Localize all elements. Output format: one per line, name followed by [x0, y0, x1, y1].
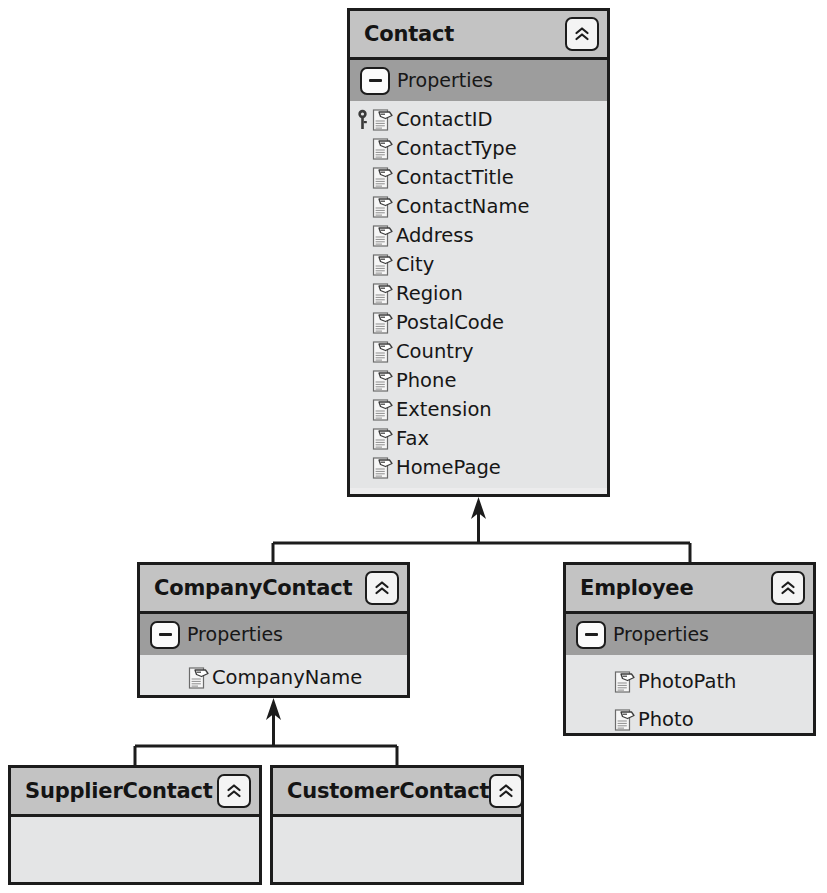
class-title-bar-contact: Contact	[350, 11, 607, 60]
class-body-suppliercontact	[11, 817, 259, 882]
property-row[interactable]: PhotoPath	[566, 663, 813, 701]
property-name: CompanyName	[212, 668, 362, 688]
property-icon	[372, 282, 394, 306]
double-chevron-up-icon[interactable]	[217, 774, 251, 808]
class-name-customercontact: CustomerContact	[287, 781, 489, 802]
property-name: Photo	[638, 710, 694, 730]
property-icon	[188, 666, 210, 690]
property-name: Phone	[396, 371, 456, 391]
property-row[interactable]: Country	[350, 337, 607, 366]
property-icon	[614, 708, 636, 732]
property-row[interactable]: City	[350, 250, 607, 279]
class-name-suppliercontact: SupplierContact	[25, 781, 217, 802]
property-row[interactable]: Address	[350, 221, 607, 250]
property-icon	[372, 311, 394, 335]
property-row[interactable]: HomePage	[350, 453, 607, 482]
double-chevron-up-icon[interactable]	[489, 774, 523, 808]
property-icon	[372, 427, 394, 451]
property-icon	[372, 166, 394, 190]
minus-icon[interactable]	[576, 621, 606, 649]
properties-list-companycontact: CompanyName	[140, 655, 407, 698]
class-body-customercontact	[273, 817, 521, 882]
properties-label-contact: Properties	[397, 71, 493, 90]
property-icon	[372, 340, 394, 364]
minus-icon[interactable]	[360, 67, 390, 95]
class-title-bar-employee: Employee	[566, 565, 813, 614]
property-name: HomePage	[396, 458, 501, 478]
minus-icon[interactable]	[150, 621, 180, 649]
properties-list-contact: ContactID ContactType	[350, 101, 607, 488]
property-icon	[372, 253, 394, 277]
property-name: Fax	[396, 429, 429, 449]
class-box-companycontact[interactable]: CompanyContact Properties	[137, 562, 410, 698]
class-name-companycontact: CompanyContact	[154, 578, 365, 599]
property-row[interactable]: Phone	[350, 366, 607, 395]
class-name-employee: Employee	[580, 578, 771, 599]
class-name-contact: Contact	[364, 24, 565, 45]
properties-section-header-contact[interactable]: Properties	[350, 60, 607, 101]
property-row[interactable]: PostalCode	[350, 308, 607, 337]
class-title-bar-customercontact: CustomerContact	[273, 768, 521, 817]
class-title-bar-companycontact: CompanyContact	[140, 565, 407, 614]
double-chevron-up-icon[interactable]	[365, 571, 399, 605]
class-box-customercontact[interactable]: CustomerContact	[270, 765, 524, 885]
class-box-employee[interactable]: Employee Properties	[563, 562, 816, 736]
double-chevron-up-icon[interactable]	[565, 17, 599, 51]
property-row[interactable]: ContactID	[350, 105, 607, 134]
property-name: ContactTitle	[396, 168, 514, 188]
property-row[interactable]: ContactType	[350, 134, 607, 163]
properties-list-employee: PhotoPath Photo	[566, 655, 813, 736]
property-name: PostalCode	[396, 313, 504, 333]
property-icon	[372, 224, 394, 248]
property-icon	[614, 670, 636, 694]
property-row[interactable]: CompanyName	[140, 659, 407, 697]
property-row[interactable]: Region	[350, 279, 607, 308]
properties-label-companycontact: Properties	[187, 625, 283, 644]
double-chevron-up-icon[interactable]	[771, 571, 805, 605]
property-row[interactable]: ContactTitle	[350, 163, 607, 192]
property-name: ContactType	[396, 139, 517, 159]
property-icon	[372, 137, 394, 161]
properties-section-header-companycontact[interactable]: Properties	[140, 614, 407, 655]
class-box-contact[interactable]: Contact Properties	[347, 8, 610, 497]
property-name: City	[396, 255, 434, 275]
primary-key-icon	[356, 109, 369, 131]
property-row[interactable]: ContactName	[350, 192, 607, 221]
property-icon	[372, 108, 394, 132]
properties-section-header-employee[interactable]: Properties	[566, 614, 813, 655]
property-icon	[372, 369, 394, 393]
class-box-suppliercontact[interactable]: SupplierContact	[8, 765, 262, 885]
property-name: Extension	[396, 400, 492, 420]
property-row[interactable]: Extension	[350, 395, 607, 424]
property-name: Address	[396, 226, 474, 246]
properties-label-employee: Properties	[613, 625, 709, 644]
property-name: Country	[396, 342, 473, 362]
property-name: ContactName	[396, 197, 529, 217]
class-diagram-canvas: Contact Properties	[0, 0, 827, 893]
property-icon	[372, 195, 394, 219]
property-row[interactable]: Photo	[566, 701, 813, 736]
class-title-bar-suppliercontact: SupplierContact	[11, 768, 259, 817]
property-name: Region	[396, 284, 463, 304]
property-icon	[372, 456, 394, 480]
property-name: ContactID	[396, 110, 493, 130]
property-name: PhotoPath	[638, 672, 736, 692]
property-icon	[372, 398, 394, 422]
property-row[interactable]: Fax	[350, 424, 607, 453]
